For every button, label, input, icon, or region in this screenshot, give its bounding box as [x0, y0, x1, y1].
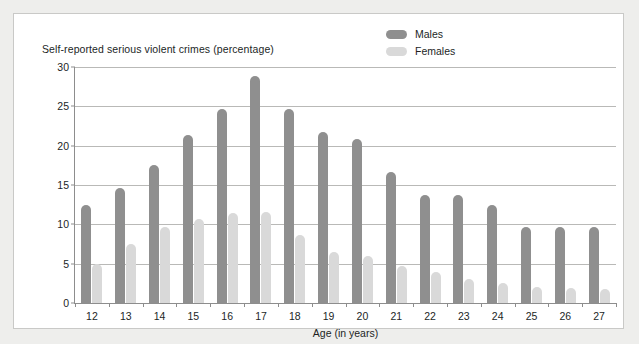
y-axis-tick-mark: [71, 224, 75, 225]
bar-male: [555, 227, 565, 303]
x-axis-tick-mark: [312, 303, 313, 307]
legend-swatch-females: [386, 47, 407, 56]
bar-female: [532, 287, 542, 303]
legend-swatch-males: [386, 30, 407, 39]
bar-female: [295, 235, 305, 303]
x-axis-tick-mark: [210, 303, 211, 307]
x-axis-tick-mark: [548, 303, 549, 307]
y-axis-tick-label: 15: [57, 179, 69, 191]
x-axis-tick-mark: [447, 303, 448, 307]
bar-female: [329, 252, 339, 303]
x-axis-tick-mark: [278, 303, 279, 307]
bar-female: [566, 288, 576, 303]
bar-female: [431, 272, 441, 303]
bar-group: [217, 67, 238, 303]
bar-group: [453, 67, 474, 303]
bar-male: [420, 195, 430, 303]
x-axis-tick-label: 18: [289, 310, 301, 322]
y-axis-tick-mark: [71, 263, 75, 264]
x-axis-tick-label: 23: [458, 310, 470, 322]
x-axis-tick-label: 17: [255, 310, 267, 322]
y-axis-tick-mark: [71, 185, 75, 186]
bar-group: [81, 67, 102, 303]
bar-male: [521, 227, 531, 303]
chart-title: Self-reported serious violent crimes (pe…: [42, 43, 274, 55]
x-axis-tick-label: 24: [492, 310, 504, 322]
bar-group: [420, 67, 441, 303]
bar-group: [284, 67, 305, 303]
x-axis-tick-mark: [379, 303, 380, 307]
y-axis-tick-mark: [71, 67, 75, 68]
bar-male: [149, 165, 159, 303]
y-axis-tick-mark: [71, 145, 75, 146]
bar-group: [555, 67, 576, 303]
bar-male: [183, 135, 193, 303]
x-axis-tick-label: 25: [526, 310, 538, 322]
bar-female: [600, 289, 610, 303]
bar-female: [363, 256, 373, 303]
bar-male: [217, 109, 227, 303]
x-axis-tick-label: 20: [357, 310, 369, 322]
bar-male: [352, 139, 362, 303]
bar-male: [115, 188, 125, 303]
bar-male: [589, 227, 599, 303]
x-axis-tick-mark: [413, 303, 414, 307]
x-axis-tick-label: 14: [154, 310, 166, 322]
x-axis-tick-mark: [346, 303, 347, 307]
legend-label-males: Males: [415, 28, 443, 40]
x-axis-tick-label: 16: [221, 310, 233, 322]
y-axis-tick-label: 0: [63, 297, 69, 309]
x-axis-tick-label: 26: [559, 310, 571, 322]
plot-area: 051015202530 121314151617181920212223242…: [74, 67, 616, 304]
bar-male: [284, 109, 294, 303]
bar-group: [183, 67, 204, 303]
bar-female: [397, 266, 407, 303]
bar-male: [386, 172, 396, 303]
chart-page: Self-reported serious violent crimes (pe…: [0, 0, 639, 344]
legend-item-females: Females: [386, 44, 455, 58]
bar-group: [589, 67, 610, 303]
bar-female: [464, 279, 474, 303]
x-axis-tick-label: 22: [424, 310, 436, 322]
legend-label-females: Females: [415, 45, 455, 57]
x-axis-tick-label: 27: [593, 310, 605, 322]
bar-group: [115, 67, 136, 303]
bar-group: [487, 67, 508, 303]
x-axis-tick-label: 13: [120, 310, 132, 322]
bar-group: [250, 67, 271, 303]
x-axis-tick-mark: [143, 303, 144, 307]
x-axis-tick-mark: [176, 303, 177, 307]
x-axis-tick-mark: [109, 303, 110, 307]
y-axis-tick-label: 5: [63, 258, 69, 270]
bar-female: [92, 264, 102, 303]
chart-legend: Males Females: [386, 27, 455, 61]
x-axis-label: Age (in years): [75, 327, 616, 339]
bar-female: [126, 244, 136, 303]
x-axis-tick-label: 19: [323, 310, 335, 322]
y-axis-tick-label: 30: [57, 61, 69, 73]
x-axis-tick-mark: [582, 303, 583, 307]
y-axis-tick-label: 25: [57, 100, 69, 112]
y-axis-tick-label: 10: [57, 218, 69, 230]
x-axis-tick-mark: [244, 303, 245, 307]
bar-male: [487, 205, 497, 303]
bar-group: [386, 67, 407, 303]
y-axis-tick-label: 20: [57, 140, 69, 152]
x-axis-tick-mark: [515, 303, 516, 307]
y-axis-tick-mark: [71, 106, 75, 107]
bar-male: [453, 195, 463, 303]
x-axis-tick-mark: [616, 303, 617, 307]
x-axis-tick-label: 21: [390, 310, 402, 322]
chart-card: Self-reported serious violent crimes (pe…: [13, 13, 624, 329]
bar-group: [521, 67, 542, 303]
x-axis-tick-label: 12: [86, 310, 98, 322]
legend-item-males: Males: [386, 27, 455, 41]
bar-group: [318, 67, 339, 303]
bar-female: [498, 283, 508, 303]
bar-male: [250, 76, 260, 303]
bar-female: [261, 212, 271, 303]
bar-female: [194, 219, 204, 303]
bar-female: [160, 227, 170, 303]
x-axis-tick-mark: [481, 303, 482, 307]
bar-group: [149, 67, 170, 303]
